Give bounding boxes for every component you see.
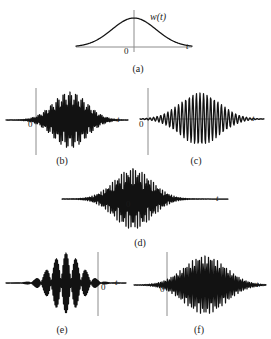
waveform-curve-e [6,253,126,313]
waveform-curve-b [6,92,128,147]
time-axis-label-c: t [252,113,255,123]
panel-e: 0t(e) [6,252,126,336]
waveform-curve-d [62,169,228,228]
panel-caption-a: (a) [132,63,143,75]
panel-caption-e: (e) [56,324,67,336]
zero-label-f: 0 [160,284,165,294]
time-axis-label-b: t [117,114,120,124]
zero-label-a: 0 [124,46,129,56]
window-function-label: w(t) [150,11,167,23]
zero-label-e: 0 [101,282,106,292]
waveform-curve-f [134,256,266,313]
time-axis-label-d: t [216,193,219,203]
panel-c: 0t(c) [139,88,264,167]
time-axis-label-e: t [115,277,118,287]
panel-b: 0t(b) [6,88,128,167]
panel-caption-c: (c) [190,155,201,167]
panel-a: 0tw(t)(a) [76,10,192,75]
panel-caption-d: (d) [134,237,146,249]
panel-caption-b: (b) [56,155,68,167]
panel-d: 0t(d) [62,168,228,249]
zero-label-c: 0 [139,119,144,129]
zero-label-b: 0 [28,119,33,129]
panel-caption-f: (f) [194,324,204,336]
zero-label-d: 0 [126,199,131,209]
wavelet-plot-canvas: 0tw(t)(a)0t(b)0t(c)0t(d)0t(e)0t(f) [0,0,271,339]
panel-f: 0t(f) [134,252,266,336]
wavelet-figure: 0tw(t)(a)0t(b)0t(c)0t(d)0t(e)0t(f) [0,0,271,339]
waveform-curve-c [140,93,264,143]
